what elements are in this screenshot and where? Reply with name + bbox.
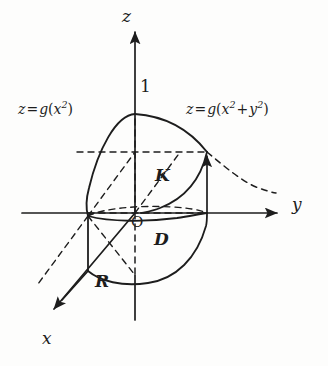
curve-label-right-arg2-base: y: [249, 101, 257, 117]
math-figure: z y x 1 O K D R z=g(x2) z=g(x2+y2): [0, 0, 328, 366]
curve-left-profile: [87, 114, 135, 216]
curve-label-left-equals: =: [25, 101, 39, 117]
dashed-x-axis-extension: [38, 216, 88, 284]
z-axis-label: z: [122, 8, 131, 25]
curve-right-profile: [135, 114, 207, 152]
x-axis-label: x: [42, 330, 52, 347]
base-ellipse-front-arc: [88, 213, 207, 221]
curve-label-left-fn: g: [39, 101, 48, 117]
z-tick-one-label: 1: [140, 78, 151, 95]
dashed-oblique-back-left: [88, 152, 135, 216]
region-r-label: R: [95, 273, 109, 290]
curve-label-right-fn: g: [207, 101, 216, 117]
curve-label-right: z=g(x2+y2): [186, 100, 269, 116]
curve-inner-front: [141, 152, 207, 213]
curve-label-left-close-paren: ): [68, 101, 73, 117]
dashed-radius-lower: [88, 216, 135, 275]
origin-label: O: [131, 215, 143, 230]
curve-label-right-close-paren: ): [263, 101, 268, 117]
curve-label-left: z=g(x2): [18, 100, 73, 116]
curve-label-right-plus: +: [236, 101, 250, 117]
curve-label-right-equals: =: [193, 101, 207, 117]
curve-right-tail-dashed: [207, 152, 276, 193]
curve-label-right-arg1-exp: 2: [229, 99, 235, 110]
region-k-label: K: [155, 167, 170, 184]
region-d-label: D: [154, 231, 169, 248]
cylinder-foot-connector: [62, 271, 88, 300]
y-axis-label: y: [292, 196, 302, 213]
